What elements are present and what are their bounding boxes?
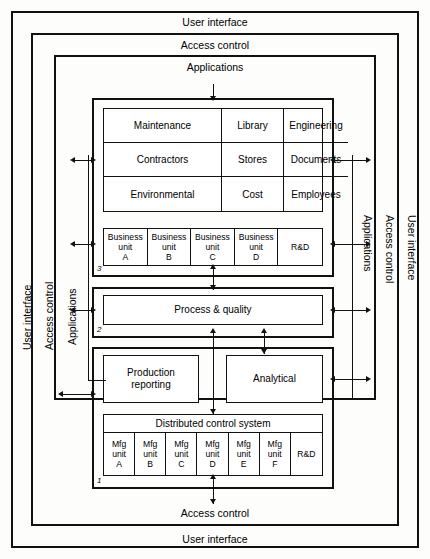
business-unit-c[interactable]: BusinessunitC [191,229,235,265]
mfg-unit-d[interactable]: MfgunitD [197,433,228,475]
mfg-unit-e[interactable]: MfgunitE [229,433,260,475]
right-conn-analytical [333,379,369,380]
dcs-header: Distributed control system [104,415,322,433]
right-arrow-business-out [366,241,371,247]
top-arrow-down-applications [210,96,216,101]
center-arrow-up-process [210,328,216,333]
left-arrow-process-out [70,307,75,313]
side-label-left-user-interface: User interface [21,285,33,350]
left-arrow-business-in [91,241,96,247]
center-conn-process-dcs [213,332,214,414]
side-label-right-access-control: Access control [384,215,396,283]
tag-level-2: 2 [97,325,101,334]
mfg-unit-b[interactable]: MfgunitB [135,433,166,475]
tag-level-3: 3 [97,264,101,273]
app-cell-library[interactable]: Library [222,109,284,143]
right-conn-process [333,310,369,311]
left-drop-to-reporting [88,380,106,381]
app-cell-maintenance[interactable]: Maintenance [104,109,222,143]
side-label-right-user-interface: User interface [406,215,418,280]
right-arrow-analytical-in [330,376,335,382]
center-arrow-down-process [210,285,216,290]
center-arrow-down-dcs [210,409,216,414]
left-arrow-business-out [70,241,75,247]
mfg-unit-row: MfgunitA MfgunitB MfgunitC MfgunitD Mfgu… [104,433,322,475]
right-arrow-business-in [330,241,335,247]
production-reporting-box[interactable]: Productionreporting [103,355,199,403]
right-arrow-process-out [366,307,371,313]
band-label-applications-top: Applications [0,62,430,73]
right-bus-line [352,155,353,400]
band-label-user-interface-top: User interface [0,17,430,28]
app-cell-engineering[interactable]: Engineering [284,109,348,143]
center-arrow-down-access [210,499,216,504]
left-arrow-process-in [91,307,96,313]
right-arrow-appgrid-in [330,157,335,163]
center-arrow-up-business [210,264,216,269]
left-arrow-appgrid-in [91,157,96,163]
band-label-access-control-bottom: Access control [0,508,430,519]
band-label-access-control-top: Access control [0,40,430,51]
app-cell-environmental[interactable]: Environmental [104,177,222,211]
business-unit-strip: BusinessunitA BusinessunitB Businessunit… [103,228,323,266]
business-unit-d[interactable]: BusinessunitD [235,229,279,265]
app-cell-cost[interactable]: Cost [222,177,284,211]
tag-level-1: 1 [97,476,101,485]
application-grid: Maintenance Library Engineering Contract… [103,108,323,212]
right-conn-business [333,244,369,245]
app-cell-contractors[interactable]: Contractors [104,143,222,177]
right-arrow-analytical-out [366,376,371,382]
distributed-control-system: Distributed control system MfgunitA Mfgu… [103,414,323,476]
business-unit-b[interactable]: BusinessunitB [148,229,192,265]
business-unit-a[interactable]: BusinessunitA [104,229,148,265]
process-quality-box[interactable]: Process & quality [103,295,323,325]
mfg-unit-c[interactable]: MfgunitC [166,433,197,475]
side-label-left-applications: Applications [66,288,78,345]
left-arrow-appgrid-out [70,157,75,163]
band-label-user-interface-bottom: User interface [0,534,430,545]
mfg-unit-f[interactable]: MfgunitF [260,433,291,475]
center-arrow-up-dcs [210,474,216,479]
app-cell-employees[interactable]: Employees [284,177,348,211]
left-arrow-reporting-in [91,391,96,397]
right-arrow-process-in [330,307,335,313]
right-conn-appgrid [333,160,369,161]
left-arrow-reporting-out [58,391,63,397]
center-arrow-down-analytical [261,349,267,354]
mfg-unit-a[interactable]: MfgunitA [104,433,135,475]
right-arrow-appgrid-out [366,157,371,163]
left-bus-drop [88,270,89,380]
analytical-box[interactable]: Analytical [226,355,323,403]
app-cell-stores[interactable]: Stores [222,143,284,177]
mfg-unit-rnd[interactable]: R&D [291,433,322,475]
architecture-diagram: User interface Access control Applicatio… [0,0,430,559]
left-conn-reporting [62,394,94,395]
side-label-left-access-control: Access control [43,282,55,350]
center-arrow-up-analytical [261,328,267,333]
business-unit-rnd[interactable]: R&D [278,229,322,265]
